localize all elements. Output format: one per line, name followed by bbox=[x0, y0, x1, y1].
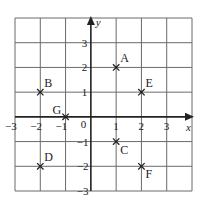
x-tick-label: −2 bbox=[30, 120, 42, 132]
y-axis-arrow-icon bbox=[87, 16, 95, 25]
x-axis-arrow-icon bbox=[185, 113, 194, 121]
x-tick-label: −1 bbox=[56, 120, 68, 132]
y-axis-label: y bbox=[95, 16, 101, 28]
y-tick-label: 3 bbox=[82, 37, 88, 49]
y-tick-label: −3 bbox=[77, 185, 89, 197]
point-label: G bbox=[53, 103, 62, 117]
y-tick-label: −2 bbox=[77, 160, 89, 172]
point-label: E bbox=[145, 76, 152, 90]
x-tick-label: 3 bbox=[164, 120, 170, 132]
coordinate-grid-chart: xy −3−2−1123321−1−2−30 ABCDEFG bbox=[0, 0, 202, 204]
point-label: B bbox=[44, 76, 52, 90]
y-tick-label: −1 bbox=[77, 136, 89, 148]
origin-label: 0 bbox=[81, 118, 87, 130]
y-tick-label: 1 bbox=[82, 86, 88, 98]
y-tick-label: 2 bbox=[82, 61, 88, 73]
x-tick-label: 2 bbox=[138, 120, 144, 132]
x-tick-label: 1 bbox=[113, 120, 119, 132]
x-tick-label: −3 bbox=[5, 120, 17, 132]
point-label: D bbox=[44, 150, 53, 164]
point-label: A bbox=[120, 51, 129, 65]
point-label: F bbox=[145, 167, 152, 181]
x-axis-label: x bbox=[185, 121, 191, 133]
point-label: C bbox=[120, 143, 128, 157]
